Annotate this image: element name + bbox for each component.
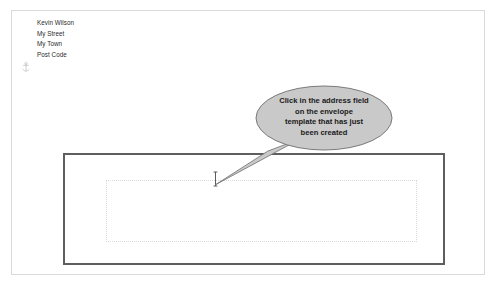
callout-line-1: Click in the address field bbox=[263, 96, 385, 107]
return-address-line-2: My Street bbox=[37, 29, 74, 40]
screen: Kevin Wilson My Street My Town Post Code bbox=[0, 0, 497, 285]
return-address-line-4: Post Code bbox=[37, 50, 74, 61]
callout-line-2: on the envelope bbox=[263, 107, 385, 118]
callout-bubble[interactable]: Click in the address field on the envelo… bbox=[255, 85, 393, 151]
text-caret-icon bbox=[212, 171, 219, 187]
envelope-shape[interactable] bbox=[63, 153, 445, 265]
callout-text: Click in the address field on the envelo… bbox=[263, 96, 385, 138]
return-address-block[interactable]: Kevin Wilson My Street My Town Post Code bbox=[37, 18, 74, 60]
callout-line-4: been created bbox=[263, 128, 385, 139]
return-address-line-3: My Town bbox=[37, 39, 74, 50]
document-page[interactable]: Kevin Wilson My Street My Town Post Code bbox=[11, 10, 485, 275]
return-address-line-1: Kevin Wilson bbox=[37, 18, 74, 29]
anchor-icon bbox=[20, 60, 32, 72]
callout-line-3: template that has just bbox=[263, 117, 385, 128]
envelope-address-field[interactable] bbox=[106, 180, 417, 242]
